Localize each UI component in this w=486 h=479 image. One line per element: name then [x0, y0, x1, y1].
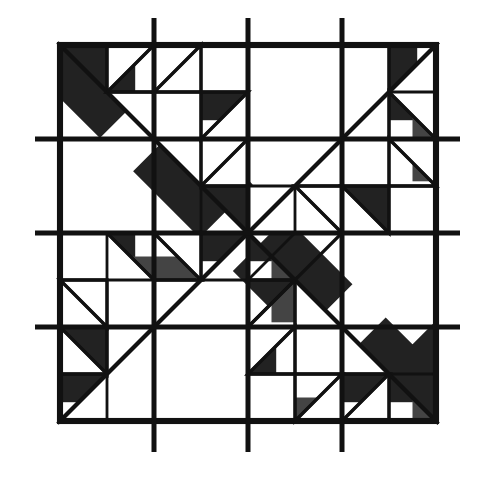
hatch-tri [60, 139, 154, 233]
quilt-diagram [0, 0, 486, 479]
